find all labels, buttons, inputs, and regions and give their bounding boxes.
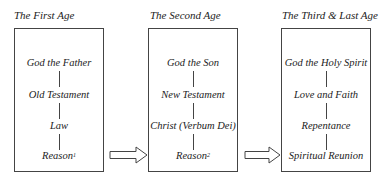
connector-line (326, 134, 327, 150)
connector-line (326, 103, 327, 119)
connector-line (59, 103, 60, 119)
age-item-with-footnote: Reason2 (149, 150, 237, 162)
right-arrow-icon (109, 146, 149, 164)
age-item: God the Holy Spirit (282, 57, 370, 69)
age-title-third: The Third & Last Age (282, 9, 378, 21)
age-title-first: The First Age (14, 9, 74, 21)
connector-line (59, 71, 60, 87)
age-item: Old Testament (15, 89, 103, 101)
connector-line (193, 134, 194, 150)
age-item: Law (15, 120, 103, 132)
age-item: God the Father (15, 57, 103, 69)
connector-line (193, 71, 194, 87)
age-item-with-footnote: Reason1 (15, 150, 103, 162)
age-item-text: Reason (176, 150, 207, 161)
footnote-marker: 2 (207, 152, 210, 158)
age-box-third: God the Holy Spirit Love and Faith Repen… (281, 28, 371, 172)
connector-line (326, 71, 327, 87)
age-item: Repentance (282, 120, 370, 132)
age-item: Christ (Verbum Dei) (149, 120, 237, 132)
connector-line (59, 134, 60, 150)
age-item: Spiritual Reunion (282, 150, 370, 162)
age-item: New Testament (149, 89, 237, 101)
connector-line (193, 103, 194, 119)
footnote-marker: 1 (73, 152, 76, 158)
age-title-second: The Second Age (150, 9, 221, 21)
age-item: God the Son (149, 57, 237, 69)
age-item-text: Reason (42, 150, 73, 161)
age-box-second: God the Son New Testament Christ (Verbum… (148, 28, 238, 172)
age-box-first: God the Father Old Testament Law Reason1 (14, 28, 104, 172)
age-item: Love and Faith (282, 89, 370, 101)
right-arrow-icon (244, 146, 282, 164)
